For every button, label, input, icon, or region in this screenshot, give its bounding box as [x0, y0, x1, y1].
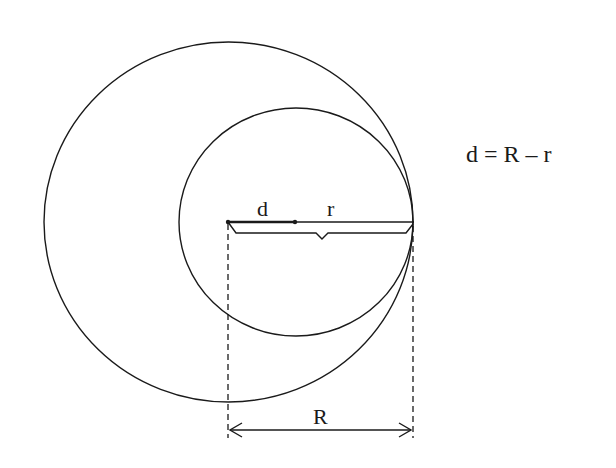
label-R: R [313, 404, 328, 429]
label-d: d [257, 196, 268, 221]
small-circle-center-point [293, 220, 297, 224]
tangent-circles-diagram: d r R [0, 0, 616, 468]
formula-d-equals-R-minus-r: d = R – r [466, 142, 552, 166]
label-r: r [327, 196, 335, 221]
R-brace [228, 222, 413, 239]
